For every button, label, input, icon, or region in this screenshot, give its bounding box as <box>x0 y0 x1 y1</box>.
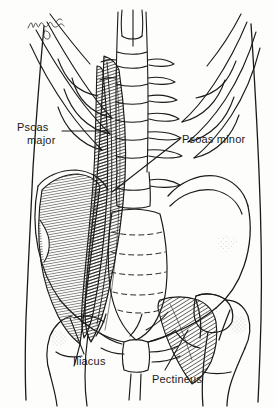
label-psoas-major: Psoasmajor <box>17 121 56 147</box>
label-psoas-minor: Psoas minor <box>182 133 245 145</box>
label-pectineus: Pectineus <box>152 373 202 385</box>
pubic-symphysis <box>123 340 150 400</box>
label-iliacus: Iliacus <box>73 355 106 367</box>
anatomy-drawing <box>0 0 276 408</box>
lumbar-vertebrae-lower <box>116 172 180 208</box>
anatomical-illustration: Psoasmajor Psoas minor Iliacus Pectineus <box>0 0 276 408</box>
artist-signature <box>28 19 64 39</box>
label-psoas-major-line2: major <box>27 134 56 147</box>
label-psoas-major-line1: Psoas <box>17 121 49 133</box>
